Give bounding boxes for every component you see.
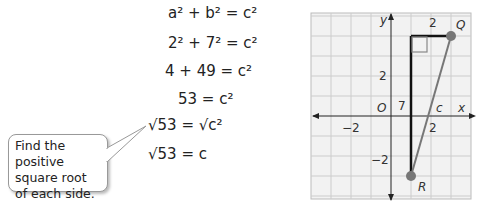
svg-text:c: c [436,101,443,115]
svg-text:−2: −2 [342,121,360,135]
coordinate-graph: y x O Q R c −2 2 2 −2 7 2 [0,0,488,202]
svg-text:R: R [418,180,426,194]
svg-text:2: 2 [429,16,437,30]
svg-text:2: 2 [429,121,437,135]
svg-text:O: O [377,101,386,115]
svg-text:Q: Q [456,18,465,32]
svg-text:7: 7 [398,99,406,113]
svg-text:y: y [379,13,388,27]
svg-text:2: 2 [379,69,387,83]
svg-text:x: x [457,101,466,115]
svg-text:−2: −2 [371,153,389,167]
